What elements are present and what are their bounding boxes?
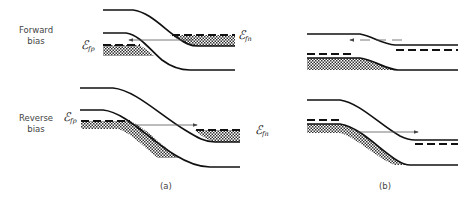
conduction-band-edge [307, 34, 458, 45]
filled-states-p-side [307, 58, 398, 70]
panel-label-b: (b) [379, 181, 391, 191]
row-label-line1: Forward [6, 25, 66, 36]
diagram-forward-a: ℰfp ℰfn [81, 10, 252, 70]
row-label-forward-bias: Forward bias [6, 25, 66, 47]
row-label-reverse-bias: Reverse bias [6, 113, 66, 135]
fermi-level-p-label: ℰfp [81, 38, 95, 53]
conduction-band-edge [307, 100, 458, 140]
filled-states-p-side [103, 45, 154, 56]
band-diagram-figure: ℰfp ℰfn ℰfp ℰfn [0, 0, 473, 200]
fermi-level-n-label: ℰfn [238, 28, 252, 43]
row-label-line1: Reverse [6, 113, 66, 124]
panel-label-a: (a) [160, 181, 172, 191]
filled-states-n-side [170, 35, 235, 46]
filled-states-p-side-slope [81, 121, 180, 158]
fermi-level-n-label: ℰfn [255, 123, 269, 138]
diagram-reverse-a: ℰfp ℰfn [63, 88, 269, 167]
row-label-line2: bias [6, 124, 66, 135]
diagram-forward-b [307, 34, 458, 70]
row-label-line2: bias [6, 36, 66, 47]
diagram-reverse-b [307, 100, 458, 165]
filled-states-n-side [195, 130, 240, 142]
